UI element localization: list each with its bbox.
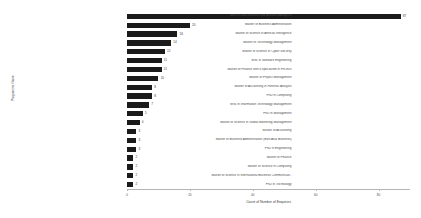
bar-value-label: 87 <box>403 15 406 18</box>
x-axis-tick <box>190 189 191 191</box>
bar[interactable] <box>127 58 162 63</box>
x-axis-title: Count of Number of Enquiries <box>127 200 410 204</box>
bar-value-label: 2 <box>135 156 137 159</box>
bar[interactable] <box>127 164 133 169</box>
y-axis-category-label: Master of Accounting in Forensic Analysi… <box>168 85 292 88</box>
y-axis-category-label: MSc in Data Science and Business Analyti… <box>168 14 292 17</box>
bar-value-label: 5 <box>145 112 147 115</box>
x-axis-line <box>127 189 410 190</box>
bar-value-label: 2 <box>135 165 137 168</box>
bar[interactable] <box>127 102 149 107</box>
x-axis-tick <box>379 189 380 191</box>
bar-value-label: 3 <box>139 139 141 142</box>
y-axis-category-label: PhD in Engineering <box>168 147 292 150</box>
x-axis-tick-label: 60 <box>314 193 317 197</box>
bar-chart: Programme Name 8720161412111110887543332… <box>0 0 421 218</box>
y-axis-category-label: Master of Business Administration <box>168 23 292 26</box>
bar[interactable] <box>127 147 136 152</box>
bar[interactable] <box>127 76 158 81</box>
bar-value-label: 11 <box>164 59 167 62</box>
bar-value-label: 11 <box>164 68 167 71</box>
bar[interactable] <box>127 67 162 72</box>
bar[interactable] <box>127 85 152 90</box>
bar[interactable] <box>127 40 171 45</box>
bar[interactable] <box>127 173 133 178</box>
x-axis-tick-label: 20 <box>188 193 191 197</box>
y-axis-title: Programme Name <box>11 53 15 123</box>
bar-value-label: 8 <box>154 95 156 98</box>
bar[interactable] <box>127 182 133 187</box>
bar-value-label: 3 <box>139 148 141 151</box>
y-axis-category-label: Master of Science in Computing <box>168 165 292 168</box>
y-axis-category-label: PhD in Computing <box>168 94 292 97</box>
y-axis-category-label: Master of Business Administration (East … <box>168 138 292 141</box>
y-axis-category-label: MSc in Software Engineering <box>168 59 292 62</box>
plot-area: 8720161412111110887543332222 <box>127 12 410 189</box>
y-axis-category-label: PhD in Management <box>168 112 292 115</box>
bar-value-label: 2 <box>135 174 137 177</box>
bar-value-label: 10 <box>161 77 164 80</box>
x-axis-tick <box>127 189 128 191</box>
y-axis-category-label: Master of Science in Global Marketing Ma… <box>168 121 292 124</box>
y-axis-category-label: Master of Science in International Busin… <box>168 174 292 177</box>
y-axis-category-label: Master of Finance <box>168 156 292 159</box>
bar[interactable] <box>127 120 140 125</box>
x-axis-tick-label: 80 <box>377 193 380 197</box>
bar-value-label: 4 <box>142 121 144 124</box>
y-axis-category-label: Master of Finance with a specialism in F… <box>168 68 292 71</box>
bar-value-label: 2 <box>135 183 137 186</box>
x-axis-tick-label: 40 <box>251 193 254 197</box>
x-axis-tick <box>316 189 317 191</box>
y-axis-category-label: Master of Science in Cyber Security <box>168 50 292 53</box>
bar[interactable] <box>127 155 133 160</box>
bar[interactable] <box>127 49 165 54</box>
y-axis-category-label: Master of Technology Management <box>168 41 292 44</box>
bar[interactable] <box>127 111 143 116</box>
y-axis-category-label: Master of Science in Artificial Intellig… <box>168 32 292 35</box>
x-axis-tick <box>253 189 254 191</box>
bar[interactable] <box>127 93 152 98</box>
bar-value-label: 3 <box>139 130 141 133</box>
y-axis-category-label: Master of Accounting <box>168 129 292 132</box>
bar-value-label: 8 <box>154 86 156 89</box>
bar[interactable] <box>127 129 136 134</box>
x-axis-tick-label: 0 <box>126 193 128 197</box>
y-axis-category-label: MSc in Information Technology Management <box>168 103 292 106</box>
bar-value-label: 7 <box>151 103 153 106</box>
y-axis-category-label: PhD in Technology <box>168 183 292 186</box>
y-axis-category-label: Master of Project Management <box>168 76 292 79</box>
bar[interactable] <box>127 138 136 143</box>
